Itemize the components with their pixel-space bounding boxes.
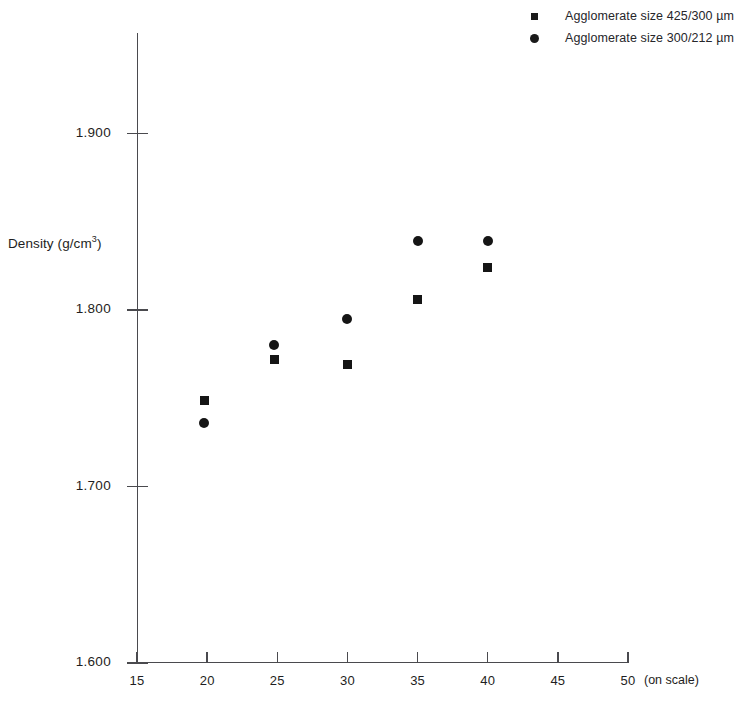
x-axis-tick-label: 50: [608, 673, 648, 688]
legend-item-425-300: Agglomerate size 425/300 µm: [527, 5, 740, 27]
x-axis-tick: [206, 652, 207, 663]
x-axis-tick: [347, 652, 348, 663]
chart-legend: Agglomerate size 425/300 µm Agglomerate …: [527, 5, 740, 49]
data-point-circle: [199, 418, 209, 428]
data-point-square: [200, 396, 209, 405]
legend-item-label: Agglomerate size 300/212 µm: [565, 31, 734, 45]
legend-item-300-212: Agglomerate size 300/212 µm: [527, 27, 740, 49]
legend-item-label: Agglomerate size 425/300 µm: [565, 9, 734, 23]
scatter-chart-figure: Agglomerate size 425/300 µm Agglomerate …: [0, 0, 740, 716]
x-axis-tick-label: 35: [398, 673, 438, 688]
y-axis-tick: [127, 309, 148, 310]
data-point-circle: [413, 236, 423, 246]
data-point-square: [483, 263, 492, 272]
y-axis-tick-label: 1.900: [49, 125, 111, 140]
y-axis-title-text: Density (g/cm: [8, 236, 92, 251]
x-axis-tick: [417, 652, 418, 663]
data-point-circle: [483, 236, 493, 246]
y-axis-tick: [127, 486, 148, 487]
x-axis-tick-label: 15: [117, 673, 157, 688]
y-axis-line: [137, 33, 138, 664]
x-axis-line: [137, 662, 629, 663]
x-axis-tick: [136, 652, 137, 663]
data-point-square: [270, 355, 279, 364]
data-point-square: [413, 295, 422, 304]
y-axis-tick-label: 1.800: [49, 301, 111, 316]
x-axis-note-text: on scale: [648, 673, 695, 687]
data-point-circle: [269, 340, 279, 350]
x-axis-tick-label: 40: [468, 673, 508, 688]
y-axis-tick-label: 1.700: [49, 478, 111, 493]
y-axis-tick-label: 1.600: [49, 654, 111, 669]
legend-square-marker-icon: [527, 8, 543, 24]
x-axis-tick: [487, 652, 488, 663]
x-axis-tick: [277, 652, 278, 663]
x-axis-note: (on scale): [644, 673, 699, 687]
y-axis-tick: [127, 133, 148, 134]
x-axis-tick-label: 20: [187, 673, 227, 688]
legend-circle-marker-icon: [527, 30, 543, 46]
x-axis-tick: [557, 652, 558, 663]
y-axis-title-tail: ): [97, 236, 102, 251]
data-point-circle: [342, 314, 352, 324]
x-axis-tick-label: 30: [327, 673, 367, 688]
x-axis-tick: [627, 652, 628, 663]
x-axis-tick-label: 25: [257, 673, 297, 688]
x-axis-tick-label: 45: [538, 673, 578, 688]
data-point-square: [343, 360, 352, 369]
y-axis-title: Density (g/cm3): [8, 234, 102, 251]
